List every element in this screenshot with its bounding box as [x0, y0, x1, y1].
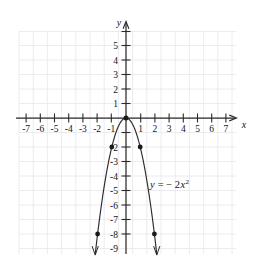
point-vertex — [124, 116, 129, 121]
point-neg2-neg8 — [95, 232, 100, 237]
equation-exponent: 2 — [185, 178, 189, 186]
svg-text:y= − 2x2: y= − 2x2 — [149, 178, 189, 190]
y-axis-label: y — [116, 17, 122, 28]
x-tick-label: 2 — [153, 124, 158, 134]
x-tick-label: -4 — [65, 124, 73, 134]
x-tick-label: -5 — [51, 124, 59, 134]
x-tick-label: 3 — [167, 124, 172, 134]
x-axis-label: x — [241, 119, 247, 130]
x-tick-label: 5 — [195, 124, 200, 134]
point-pos1-neg2 — [138, 145, 143, 150]
point-neg1-neg2 — [109, 145, 114, 150]
y-tick-label: 1 — [113, 99, 118, 109]
equation-label: y= − 2x2 — [149, 178, 189, 190]
y-tick-label: -8 — [110, 230, 118, 240]
x-tick-label: -7 — [22, 124, 30, 134]
y-tick-label: -7 — [110, 215, 118, 225]
x-tick-label: 7 — [224, 124, 229, 134]
x-tick-label: -6 — [36, 124, 44, 134]
y-tick-label: 4 — [113, 56, 118, 66]
y-tick-label: -4 — [110, 172, 118, 182]
equation-lead: y — [149, 179, 155, 190]
x-tick-label: 4 — [181, 124, 186, 134]
y-tick-label: 3 — [113, 70, 118, 80]
y-tick-label: 2 — [113, 85, 118, 95]
y-tick-label: 5 — [113, 41, 118, 51]
equation-equals: = − 2 — [158, 179, 180, 190]
figure-page: . . . . — [0, 0, 258, 269]
x-tick-label: 1 — [138, 124, 143, 134]
y-tick-label: -3 — [110, 157, 118, 167]
y-tick-label: -6 — [110, 201, 118, 211]
x-tick-label: -2 — [93, 124, 101, 134]
grid-lines — [19, 31, 236, 254]
point-pos2-neg8 — [152, 232, 157, 237]
x-tick-label: -3 — [79, 124, 87, 134]
x-tick-label: 6 — [209, 124, 214, 134]
coordinate-plane-figure: -7 -6 -5 -4 -3 -2 -1 1 2 3 4 5 6 7 5 4 3… — [0, 0, 258, 269]
y-tick-label: -5 — [110, 186, 118, 196]
y-tick-label: -9 — [110, 244, 118, 254]
x-tick-label: -1 — [107, 124, 115, 134]
